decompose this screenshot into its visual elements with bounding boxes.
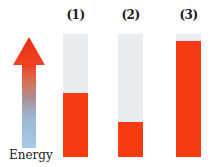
energy-bar-3-fill xyxy=(176,41,201,157)
arrow-shape xyxy=(13,37,45,148)
energy-axis-arrow-icon xyxy=(9,36,49,150)
bar-1-label: (1) xyxy=(63,8,88,22)
energy-axis-label: Energy xyxy=(9,148,53,162)
bar-2-label: (2) xyxy=(118,8,143,22)
bar-3-label: (3) xyxy=(176,8,201,22)
energy-bar-1-fill xyxy=(63,93,88,157)
energy-bar-2-fill xyxy=(118,122,143,157)
energy-bar-3 xyxy=(176,34,201,157)
energy-diagram: (1) (2) (3) Energy xyxy=(0,0,212,167)
energy-bar-2 xyxy=(118,34,143,157)
energy-bar-1 xyxy=(63,34,88,157)
